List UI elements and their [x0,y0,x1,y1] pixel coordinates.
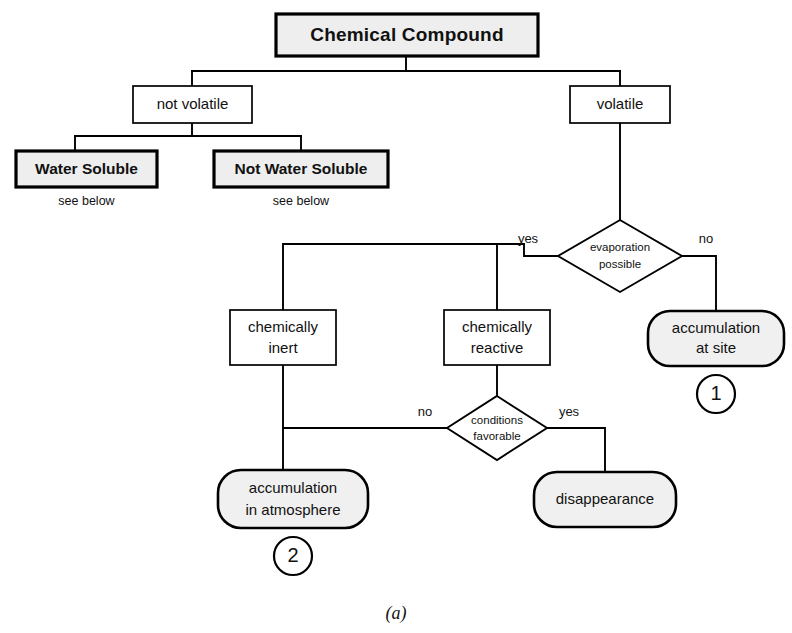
node-chemical-compound-label: Chemical Compound [310,24,503,45]
node-chemically-reactive-label-line1: chemically [462,318,533,335]
node-volatile-label: volatile [597,95,644,112]
node-evaporation-possible-label-line2: possible [599,258,641,270]
badge-label-1: 1 [710,382,721,404]
node-water-soluble-note: see below [58,194,115,208]
node-conditions-favorable-label-line2: favorable [473,430,520,442]
node-chemically-inert[interactable]: chemically inert [230,310,336,365]
node-evaporation-possible-label-line1: evaporation [590,241,650,253]
edge-evaporation-no [682,256,716,311]
node-chemical-compound[interactable]: Chemical Compound [276,14,538,56]
edge-label-conditions-yes: yes [559,404,580,419]
edge-label-evaporation-yes: yes [518,231,539,246]
node-disappearance[interactable]: disappearance [534,472,676,527]
node-conditions-favorable[interactable]: conditions favorable [447,396,547,460]
node-accumulation-at-site[interactable]: accumulation at site 1 [648,311,784,413]
edge-evaporation-yes [283,244,558,310]
node-water-soluble[interactable]: Water Soluble see below [16,151,157,208]
node-chemically-reactive-label-line2: reactive [471,339,524,356]
node-chemically-inert-label-line2: inert [268,339,298,356]
flowchart-diagram: Chemical Compound not volatile volatile … [0,0,792,633]
node-conditions-favorable-label-line1: conditions [471,414,523,426]
edge-conditions-yes [547,428,605,472]
node-not-volatile-label: not volatile [157,95,229,112]
node-evaporation-possible[interactable]: evaporation possible [558,220,682,292]
node-accumulation-in-atmosphere-label-line1: accumulation [249,479,337,496]
node-not-water-soluble-label: Not Water Soluble [235,160,368,177]
edge-label-evaporation-no: no [699,231,713,246]
node-not-water-soluble[interactable]: Not Water Soluble see below [214,151,388,208]
figure-caption: (a) [386,603,407,624]
node-accumulation-in-atmosphere[interactable]: accumulation in atmosphere 2 [218,470,368,575]
node-accumulation-at-site-label-line1: accumulation [672,319,760,336]
node-not-water-soluble-note: see below [273,194,330,208]
node-water-soluble-label: Water Soluble [35,160,138,177]
node-accumulation-in-atmosphere-label-line2: in atmosphere [245,501,340,518]
node-accumulation-at-site-label-line2: at site [696,339,736,356]
node-not-volatile[interactable]: not volatile [133,86,252,123]
node-volatile[interactable]: volatile [570,86,670,123]
edge-label-conditions-no: no [418,404,432,419]
badge-label-2: 2 [287,544,298,566]
node-disappearance-label: disappearance [556,490,654,507]
node-chemically-inert-label-line1: chemically [248,318,319,335]
node-chemically-reactive[interactable]: chemically reactive [444,310,550,365]
